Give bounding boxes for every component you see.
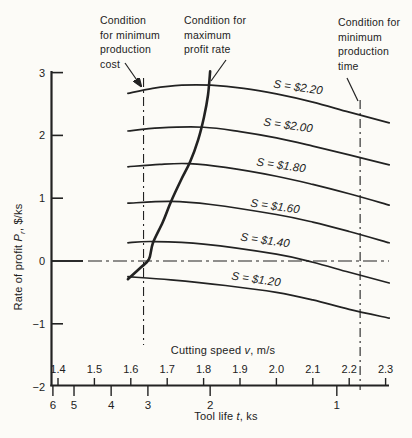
annotation-line: Condition for [184, 13, 246, 28]
y-tick-label: 2 [39, 129, 45, 141]
annotation-leader-line [347, 78, 358, 101]
x-tick-label: 1.6 [123, 363, 138, 375]
tool-life-tick-label: 1 [334, 399, 340, 411]
curve-label: S = $1.80 [256, 156, 307, 175]
curve-label: S = $1.40 [240, 231, 291, 250]
x-tick-label: 2.2 [342, 363, 357, 375]
x-tick-label: 1.9 [232, 363, 247, 375]
x-tick-label: 1.4 [50, 363, 65, 375]
x-tick-label: 1.8 [196, 363, 211, 375]
curve-label: S = $1.20 [231, 270, 282, 289]
annotation-line: time [338, 59, 400, 74]
curve-220 [128, 85, 389, 123]
y-axis-variable-subscript: r [18, 231, 27, 234]
y-tick-label: 3 [39, 67, 45, 79]
x-axis-title-text: Cutting speed [171, 344, 245, 356]
annotation-line: maximum [184, 28, 246, 43]
tool-life-tick-label: 6 [50, 399, 56, 411]
y-axis-variable: P [12, 234, 24, 242]
curve-label: S = $2.20 [273, 78, 324, 97]
y-axis-units: , $/ks [12, 204, 24, 232]
annotation-line: production [338, 44, 400, 59]
annotation-line: Condition for [338, 15, 400, 30]
x-tick-label: 2.0 [269, 363, 284, 375]
annotation-min-production-cost: Condition for minimum production cost [100, 13, 160, 71]
x-tick-label: 1.7 [160, 363, 175, 375]
x-tick-label: 2.1 [305, 363, 320, 375]
annotation-line: production [100, 42, 160, 57]
y-tick-label: 0 [39, 255, 45, 267]
x-tick-label: 1.5 [87, 363, 102, 375]
y-axis-title: Rate of profit Pr, $/ks [12, 171, 26, 343]
y-tick-label: −2 [32, 381, 45, 393]
tool-life-tick-label: 5 [71, 399, 77, 411]
tool-life-tick-label: 4 [108, 399, 115, 411]
x-axis-units: , m/s [250, 344, 275, 356]
y-tick-label: 1 [39, 192, 45, 204]
tool-life-title-text: Tool life [194, 410, 236, 422]
x-tick-label: 2.3 [378, 363, 393, 375]
profit-rate-vs-cutting-speed-figure: 3210−1−21.41.51.61.71.81.92.02.12.22.365… [0, 0, 412, 438]
annotation-max-profit-rate: Condition for maximum profit rate [184, 13, 246, 57]
max-profit-rate-locus-curve [128, 71, 210, 279]
y-tick-label: −1 [32, 318, 45, 330]
annotation-line: profit rate [184, 42, 246, 57]
annotation-min-production-time: Condition for minimum production time [338, 15, 400, 73]
annotation-line: Condition [100, 13, 160, 28]
annotation-line: minimum [338, 30, 400, 45]
annotation-line: cost [100, 57, 160, 72]
curve-label: S = $2.00 [263, 116, 314, 135]
tool-life-axis-title: Tool life t, ks [120, 410, 332, 422]
tool-life-units: , ks [240, 410, 258, 422]
curve-label: S = $1.60 [250, 197, 301, 216]
annotation-line: for minimum [100, 28, 160, 43]
y-axis-title-text: Rate of profit [12, 241, 24, 310]
annotation-leader-line [211, 60, 226, 81]
x-axis-title: Cutting speed v, m/s [118, 344, 328, 356]
